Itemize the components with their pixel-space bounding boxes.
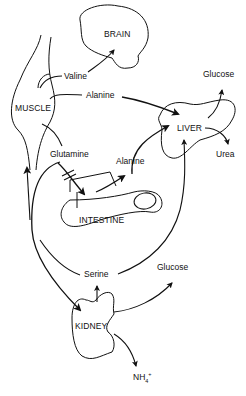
liver-label: LIVER: [177, 124, 202, 133]
arrow-alanine-to-liver: [122, 97, 178, 114]
alanine-intestine-label: Alanine: [116, 157, 144, 166]
glutamine-label: Glutamine: [50, 150, 89, 159]
arrow-glutamine-to-intestine: [58, 163, 84, 194]
glucose-liver-label: Glucose: [203, 70, 234, 79]
arrow-kidney-glucose: [114, 283, 172, 312]
nh4-superscript: +: [148, 371, 151, 377]
intestinal-cell-box: [70, 172, 116, 192]
serine-label: Serine: [84, 270, 109, 279]
amino-acid-flow-diagram: [0, 0, 246, 396]
valine-label: Valine: [64, 72, 87, 81]
nh4-subscript: 4: [145, 378, 148, 384]
glutamine-line-muscle: [42, 124, 62, 146]
muscle-label: MUSCLE: [15, 104, 51, 113]
nh4-base: NH: [133, 372, 145, 382]
arrow-glutamine-to-kidney: [32, 162, 80, 310]
arrow-into-muscle: [27, 168, 30, 220]
nh4-label: NH4+: [133, 372, 152, 384]
brain-label: BRAIN: [104, 30, 130, 39]
arrow-liver-glucose: [208, 90, 222, 118]
arrow-kidney-nh4: [114, 334, 136, 366]
arrow-liver-urea: [205, 128, 228, 144]
glucose-kidney-label: Glucose: [157, 263, 188, 272]
intestine-opening: [133, 191, 157, 211]
intestine-label: INTESTINE: [79, 216, 124, 225]
urea-label: Urea: [216, 150, 234, 159]
alanine-muscle-label: Alanine: [86, 91, 114, 100]
kidney-label: KIDNEY: [75, 322, 107, 331]
arrow-intestine-to-alanine: [96, 176, 124, 192]
